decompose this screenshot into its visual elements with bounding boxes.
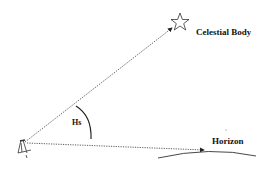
sextant-icon <box>18 140 31 158</box>
diagram-canvas <box>0 0 269 172</box>
angle-hs-label: Hs <box>72 118 81 127</box>
horizon-ray <box>27 143 204 150</box>
line-of-sight-ray <box>25 28 172 142</box>
star-icon <box>171 13 189 30</box>
celestial-body-label: Celestial Body <box>196 27 251 37</box>
horizon-label: Horizon <box>212 136 244 146</box>
horizon-curve <box>158 151 256 158</box>
